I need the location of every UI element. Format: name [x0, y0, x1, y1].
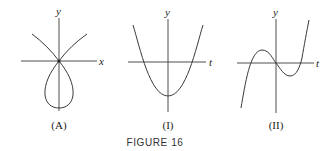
panel-a-x-label: x	[98, 55, 104, 67]
panel-a-label: (A)	[51, 119, 67, 132]
panel-ii-y-label: y	[272, 6, 278, 18]
panel-i-y-label: y	[164, 6, 170, 18]
figure-caption: FIGURE 16	[126, 137, 183, 148]
figure-16: y x (A) y t (I) y t (II) FIGURE 16	[0, 0, 333, 151]
panel-ii-cubic	[241, 20, 309, 108]
panel-i: y t (I)	[128, 6, 213, 132]
panel-a-curve-branches	[32, 34, 87, 61]
panel-a-origin-point	[57, 59, 60, 62]
panel-a: y x (A)	[21, 5, 104, 132]
panel-ii: y t (II)	[237, 6, 320, 132]
panel-ii-label: (II)	[269, 119, 284, 132]
panel-a-y-label: y	[55, 5, 61, 17]
panel-i-t-label: t	[209, 56, 213, 68]
panel-ii-t-label: t	[316, 57, 320, 69]
panel-i-label: (I)	[163, 119, 174, 132]
